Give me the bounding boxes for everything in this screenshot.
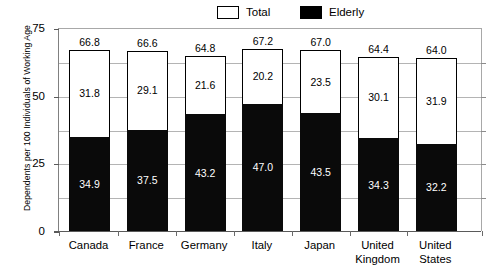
bar-france[interactable]: 66.629.137.5	[127, 51, 168, 231]
x-axis-tick	[176, 231, 177, 236]
x-axis-label-united-kingdom: United Kingdom	[349, 239, 406, 266]
y-axis-tick-right	[481, 63, 486, 64]
bar-italy[interactable]: 67.220.247.0	[242, 49, 283, 231]
bar-label-total: 64.0	[417, 44, 456, 56]
bar-label-youth: 29.1	[128, 84, 167, 96]
bar-label-youth: 21.6	[186, 79, 225, 91]
y-axis-title: Dependents per 100 Individuals of Workin…	[22, 18, 32, 218]
chart-figure: Total Elderly Dependents per 100 Individ…	[0, 0, 495, 273]
x-axis-label-italy: Italy	[233, 239, 290, 253]
x-axis-label-canada: Canada	[60, 239, 117, 253]
x-axis-tick	[292, 231, 293, 236]
legend-label-total: Total	[246, 6, 270, 19]
bar-label-elderly: 37.5	[128, 174, 167, 186]
y-axis-tick-label: 0	[39, 225, 45, 237]
bar-label-youth: 31.9	[417, 95, 456, 107]
y-axis-tick-label: 50	[32, 90, 45, 102]
x-axis-tick	[407, 231, 408, 236]
y-axis-tick-right	[481, 198, 486, 199]
x-axis-tick-edge	[482, 231, 483, 236]
bar-label-total: 64.8	[186, 42, 225, 54]
bar-label-youth: 20.2	[243, 70, 282, 82]
bar-label-total: 67.0	[301, 36, 340, 48]
bar-label-total: 66.6	[128, 37, 167, 49]
y-axis-tick-right	[481, 164, 486, 165]
bar-label-elderly: 32.2	[417, 181, 456, 193]
y-axis-tick-label: 25	[32, 157, 45, 169]
bar-label-total: 64.4	[359, 43, 398, 55]
bar-label-youth: 23.5	[301, 76, 340, 88]
x-axis-tick	[234, 231, 235, 236]
y-axis-tick-label: 75	[32, 22, 45, 34]
bar-united-kingdom[interactable]: 64.430.134.3	[358, 57, 399, 231]
bar-label-elderly: 34.3	[359, 179, 398, 191]
plot-area: 025507566.831.834.966.629.137.564.821.64…	[58, 28, 482, 231]
x-axis-label-germany: Germany	[176, 239, 233, 253]
chart-legend: Total Elderly	[0, 3, 495, 23]
bar-canada[interactable]: 66.831.834.9	[69, 50, 110, 231]
y-axis-tick: 75	[54, 29, 59, 30]
y-axis-tick-right	[481, 131, 486, 132]
x-axis-label-united-states: United States	[407, 239, 464, 266]
bar-germany[interactable]: 64.821.643.2	[185, 56, 226, 231]
bar-united-states[interactable]: 64.031.932.2	[416, 58, 457, 231]
x-axis-label-japan: Japan	[291, 239, 348, 253]
legend-label-elderly: Elderly	[329, 6, 364, 19]
bar-japan[interactable]: 67.023.543.5	[300, 50, 341, 231]
bar-label-total: 67.2	[243, 35, 282, 47]
bar-label-elderly: 43.5	[301, 166, 340, 178]
x-axis-label-france: France	[118, 239, 175, 253]
legend-swatch-elderly	[300, 6, 322, 19]
bar-label-youth: 30.1	[359, 91, 398, 103]
legend-item-total: Total	[217, 4, 270, 20]
y-axis-tick-right	[481, 97, 486, 98]
bar-label-youth: 31.8	[70, 87, 109, 99]
legend-item-elderly: Elderly	[300, 4, 364, 20]
x-axis-tick	[350, 231, 351, 236]
legend-swatch-total	[217, 6, 239, 19]
bar-label-elderly: 43.2	[186, 167, 225, 179]
bar-label-total: 66.8	[70, 36, 109, 48]
x-axis-tick	[118, 231, 119, 236]
x-axis-tick-edge	[59, 231, 60, 236]
bar-label-elderly: 47.0	[243, 161, 282, 173]
bar-label-elderly: 34.9	[70, 178, 109, 190]
